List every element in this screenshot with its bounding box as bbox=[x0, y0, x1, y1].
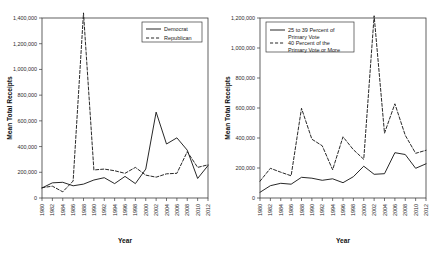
y-tick-label: 1,200,000 bbox=[231, 15, 255, 21]
legend-label: Primary Vote or More bbox=[288, 47, 340, 53]
x-tick-label: 1992 bbox=[319, 204, 325, 216]
legend-label: Democrat bbox=[164, 26, 188, 32]
x-tick-label: 1982 bbox=[267, 204, 273, 216]
y-tick-label: 400,000 bbox=[18, 144, 38, 150]
y-tick-label: 800,000 bbox=[18, 92, 38, 98]
x-tick-label: 1988 bbox=[298, 204, 304, 216]
y-tick-label: 600,000 bbox=[235, 105, 255, 111]
y-tick-label: 400,000 bbox=[235, 135, 255, 141]
y-axis-title: Mean Total Receipts bbox=[6, 76, 14, 140]
x-tick-label: 1980 bbox=[257, 204, 263, 216]
x-tick-label: 1996 bbox=[340, 204, 346, 216]
series-line-solid bbox=[260, 153, 426, 193]
x-tick-label: 1998 bbox=[132, 204, 138, 216]
x-tick-label: 2002 bbox=[371, 204, 377, 216]
x-tick-label: 2004 bbox=[381, 204, 387, 216]
x-tick-label: 1984 bbox=[277, 204, 283, 216]
x-axis-title: Year bbox=[118, 237, 132, 244]
x-tick-label: 2008 bbox=[184, 204, 190, 216]
x-tick-label: 1986 bbox=[70, 204, 76, 216]
y-tick-label: 600,000 bbox=[18, 118, 38, 124]
legend-label: Republican bbox=[164, 35, 192, 41]
x-tick-label: 2006 bbox=[174, 204, 180, 216]
x-tick-label: 2012 bbox=[423, 204, 429, 216]
plot-frame bbox=[42, 18, 208, 198]
chart-panel-left: 0200,000400,000600,000800,0001,000,0001,… bbox=[0, 0, 218, 254]
x-tick-label: 1992 bbox=[101, 204, 107, 216]
legend-label: 40 Percent of the bbox=[288, 40, 330, 46]
x-tick-label: 1994 bbox=[329, 204, 335, 216]
x-tick-label: 1990 bbox=[308, 204, 314, 216]
y-tick-label: 1,400,000 bbox=[13, 15, 37, 21]
left-panel-plot: 0200,000400,000600,000800,0001,000,0001,… bbox=[0, 0, 218, 254]
x-tick-label: 2010 bbox=[412, 204, 418, 216]
series-line-solid bbox=[42, 112, 208, 188]
x-tick-label: 2012 bbox=[205, 204, 211, 216]
x-tick-label: 1982 bbox=[49, 204, 55, 216]
x-tick-label: 2002 bbox=[153, 204, 159, 216]
x-axis-title: Year bbox=[336, 237, 350, 244]
y-tick-label: 200,000 bbox=[18, 169, 38, 175]
x-tick-label: 2008 bbox=[402, 204, 408, 216]
x-tick-label: 1988 bbox=[81, 204, 87, 216]
legend-label: 25 to 39 Percent of bbox=[288, 27, 335, 33]
y-tick-label: 200,000 bbox=[235, 165, 255, 171]
x-tick-label: 2006 bbox=[391, 204, 397, 216]
y-tick-label: 0 bbox=[34, 195, 37, 201]
y-tick-label: 1,200,000 bbox=[13, 41, 37, 47]
x-tick-label: 1994 bbox=[112, 204, 118, 216]
y-axis-title: Mean Total Receipts bbox=[224, 76, 232, 140]
two-panel-line-chart-figure: 0200,000400,000600,000800,0001,000,0001,… bbox=[0, 0, 435, 254]
x-tick-label: 1996 bbox=[122, 204, 128, 216]
y-tick-label: 1,000,000 bbox=[231, 45, 255, 51]
x-tick-label: 2010 bbox=[195, 204, 201, 216]
x-tick-label: 1990 bbox=[91, 204, 97, 216]
legend-label: Primary Vote bbox=[288, 34, 319, 40]
x-tick-label: 1986 bbox=[288, 204, 294, 216]
y-tick-label: 800,000 bbox=[235, 75, 255, 81]
right-panel-plot: 0200,000400,000600,000800,0001,000,0001,… bbox=[218, 0, 435, 254]
x-tick-label: 1980 bbox=[39, 204, 45, 216]
y-tick-label: 1,000,000 bbox=[13, 66, 37, 72]
y-tick-label: 0 bbox=[252, 195, 255, 201]
x-tick-label: 1998 bbox=[350, 204, 356, 216]
x-tick-label: 2000 bbox=[360, 204, 366, 216]
x-tick-label: 2000 bbox=[143, 204, 149, 216]
chart-panel-right: 0200,000400,000600,000800,0001,000,0001,… bbox=[218, 0, 435, 254]
x-tick-label: 1984 bbox=[60, 204, 66, 216]
x-tick-label: 2004 bbox=[164, 204, 170, 216]
